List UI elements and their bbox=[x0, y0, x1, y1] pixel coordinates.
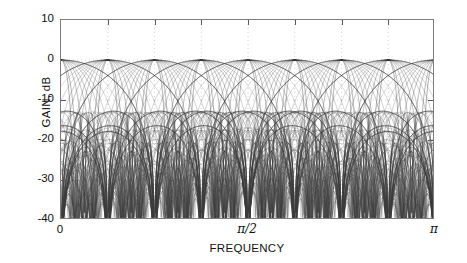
x-tick-label: 0 bbox=[40, 224, 80, 236]
y-tick-label: 10 bbox=[2, 13, 54, 25]
x-tick-label: π bbox=[414, 224, 454, 236]
plot-area bbox=[60, 19, 434, 219]
y-tick-label: -30 bbox=[2, 173, 54, 185]
figure-canvas: GAIN, dB FREQUENCY 100-10-20-30-400π/2π bbox=[0, 0, 467, 263]
curve-layer bbox=[61, 20, 434, 219]
y-tick-label: -10 bbox=[2, 93, 54, 105]
x-tick-label: π/2 bbox=[227, 224, 267, 236]
y-tick-label: -20 bbox=[2, 133, 54, 145]
y-tick-label: 0 bbox=[2, 53, 54, 65]
x-axis-title: FREQUENCY bbox=[60, 242, 434, 254]
y-tick-label: -40 bbox=[2, 213, 54, 225]
